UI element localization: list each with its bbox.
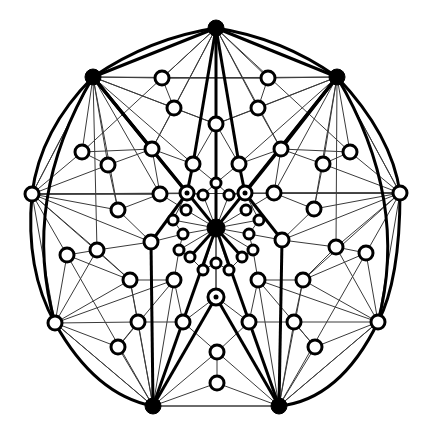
thin-edge — [55, 322, 138, 323]
thin-edge — [279, 322, 378, 406]
white-node — [144, 235, 158, 249]
thick-edge — [93, 28, 216, 77]
white-node — [48, 316, 62, 330]
black-node — [207, 219, 225, 237]
white-node — [343, 145, 357, 159]
white-node — [210, 376, 224, 390]
white-node — [251, 273, 265, 287]
white-node — [267, 186, 281, 200]
thin-edge — [281, 149, 350, 152]
white-node — [167, 101, 181, 115]
black-node — [85, 69, 101, 85]
small-node — [224, 265, 234, 275]
small-node — [224, 190, 234, 200]
small-node — [241, 205, 251, 215]
white-node — [275, 233, 289, 247]
black-node — [208, 20, 224, 36]
white-node — [242, 315, 256, 329]
white-node — [75, 145, 89, 159]
thin-edge — [314, 77, 337, 209]
white-node — [176, 315, 190, 329]
outer-arc — [44, 77, 93, 323]
thin-edge — [93, 77, 118, 210]
white-node — [307, 202, 321, 216]
small-node — [248, 245, 258, 255]
thick-edge — [216, 28, 337, 77]
black-node — [145, 398, 161, 414]
white-node — [261, 71, 275, 85]
white-node — [393, 186, 407, 200]
small-node — [174, 245, 184, 255]
white-node — [359, 246, 373, 260]
node-center-dot — [214, 295, 219, 300]
white-node — [145, 142, 159, 156]
node-center-dot — [243, 191, 248, 196]
graph-diagram — [0, 0, 432, 440]
thin-edge — [323, 164, 400, 193]
thick-edge — [151, 242, 153, 406]
thin-edge — [82, 149, 152, 152]
white-node — [25, 187, 39, 201]
white-node — [308, 340, 322, 354]
white-node — [90, 243, 104, 257]
small-node — [198, 265, 208, 275]
small-node — [244, 229, 254, 239]
white-node — [155, 71, 169, 85]
thin-edge — [303, 253, 366, 280]
small-node — [178, 229, 188, 239]
white-node — [60, 248, 74, 262]
white-node — [111, 203, 125, 217]
white-node — [111, 340, 125, 354]
thin-edge — [67, 255, 153, 406]
node-center-dot — [185, 191, 190, 196]
small-node — [211, 178, 221, 188]
thin-edge — [67, 255, 130, 280]
small-node — [211, 258, 221, 268]
thick-edge — [93, 77, 187, 193]
white-node — [209, 117, 223, 131]
thin-edge — [32, 194, 151, 242]
small-node — [181, 205, 191, 215]
white-node — [186, 157, 200, 171]
white-node — [101, 158, 115, 172]
small-node — [168, 215, 178, 225]
white-node — [232, 157, 246, 171]
white-node — [296, 273, 310, 287]
thin-edge — [55, 323, 153, 406]
thin-edge — [32, 165, 108, 194]
black-node — [271, 398, 287, 414]
thin-edge — [55, 323, 118, 347]
thin-edge — [314, 193, 400, 209]
thin-edge — [336, 77, 337, 247]
white-node — [274, 142, 288, 156]
thin-edge — [217, 383, 279, 406]
white-node — [316, 157, 330, 171]
white-node — [153, 187, 167, 201]
small-node — [198, 190, 208, 200]
white-node — [167, 273, 181, 287]
black-node — [329, 69, 345, 85]
thin-edge — [93, 77, 97, 250]
thick-edge — [279, 240, 282, 406]
thin-edge — [55, 280, 130, 323]
small-node — [185, 252, 195, 262]
white-node — [123, 273, 137, 287]
white-node — [371, 315, 385, 329]
white-node — [329, 240, 343, 254]
small-node — [254, 215, 264, 225]
white-node — [131, 315, 145, 329]
white-node — [251, 101, 265, 115]
white-node — [210, 345, 224, 359]
white-node — [287, 315, 301, 329]
small-node — [237, 252, 247, 262]
